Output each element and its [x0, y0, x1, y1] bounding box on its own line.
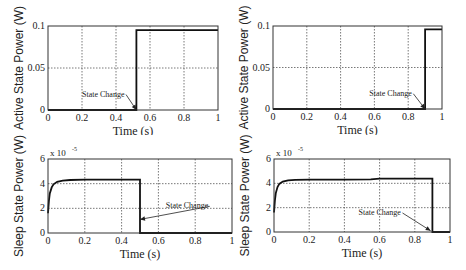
y-tick-label: 0.05 [28, 62, 46, 73]
x-axis-label: Time (s) [120, 247, 161, 261]
y-axis-label: Sleep State Power (W) [238, 135, 252, 257]
x-tick-label: 0 [271, 111, 276, 122]
y-tick-label: 0.1 [33, 20, 46, 31]
x-tick-label: 0.8 [189, 235, 202, 246]
y-tick-label: 0 [40, 227, 45, 238]
y-tick-label: 4 [40, 178, 45, 189]
chart-sleep-power-switch-0-5: 00.20.40.60.810246x 10-5Time (s)Sleep St… [0, 135, 235, 270]
x-tick-label: 0.2 [76, 112, 89, 123]
x-tick-label: 0 [46, 235, 51, 246]
y-multiplier-base: x 10 [276, 148, 292, 158]
grid [48, 26, 218, 110]
y-tick-label: 6 [40, 153, 45, 164]
x-tick-label: 0.4 [110, 112, 123, 123]
x-tick-label: 0.4 [338, 234, 351, 245]
grid [273, 26, 442, 109]
y-tick-label: 4 [266, 177, 271, 188]
x-tick-label: 0.6 [144, 112, 157, 123]
annotation-state-change: State Change [166, 201, 209, 210]
data-line [274, 179, 450, 232]
x-tick-label: 1 [448, 234, 453, 245]
x-tick-label: 0.4 [334, 111, 347, 122]
x-tick-label: 0.6 [152, 235, 165, 246]
x-tick-label: 1 [216, 112, 221, 123]
x-tick-label: 0.2 [303, 234, 316, 245]
chart-svg: 00.20.40.60.810246x 10-5Time (s)Sleep St… [235, 135, 466, 270]
y-tick-label: 0.05 [253, 62, 271, 73]
x-axis-label: Time (s) [337, 123, 378, 135]
y-multiplier-base: x 10 [50, 148, 66, 158]
y-tick-label: 0 [266, 226, 271, 237]
data-line [48, 30, 218, 110]
arrowhead-icon [425, 226, 430, 231]
y-tick-label: 0 [265, 103, 270, 114]
x-tick-label: 0.8 [409, 234, 422, 245]
x-axis-label: Time (s) [113, 124, 154, 135]
x-tick-label: 0 [46, 112, 51, 123]
y-multiplier-exponent: -5 [72, 146, 77, 152]
y-axis-label: Sleep State Power (W) [12, 135, 26, 257]
y-tick-label: 0.1 [258, 20, 271, 31]
x-tick-label: 0.8 [402, 111, 415, 122]
y-axis-label: Active State Power (W) [12, 6, 26, 130]
chart-active-power-switch-0-5: 00.20.40.60.8100.050.1Time (s)Active Sta… [0, 0, 235, 135]
x-tick-label: 1 [440, 111, 445, 122]
x-axis-label: Time (s) [342, 246, 383, 260]
chart-svg: 00.20.40.60.810246x 10-5Time (s)Sleep St… [0, 135, 235, 270]
x-tick-label: 0.8 [178, 112, 191, 123]
y-tick-label: 2 [40, 202, 45, 213]
y-tick-label: 0 [40, 104, 45, 115]
plot-frame [274, 159, 450, 232]
annotation-state-change: State Change [358, 208, 401, 217]
annotation-state-change: State Change [82, 90, 125, 99]
x-tick-label: 0.6 [373, 234, 386, 245]
x-tick-label: 0 [272, 234, 277, 245]
chart-svg: 00.20.40.60.8100.050.1Time (s)Active Sta… [0, 0, 235, 135]
y-multiplier-exponent: -5 [298, 146, 303, 152]
annotation-state-change: State Change [369, 89, 412, 98]
x-tick-label: 0.2 [301, 111, 314, 122]
y-tick-label: 2 [266, 202, 271, 213]
x-tick-label: 1 [230, 235, 235, 246]
x-tick-label: 0.4 [115, 235, 128, 246]
x-tick-label: 0.6 [368, 111, 381, 122]
grid [274, 159, 450, 232]
y-axis-label: Active State Power (W) [237, 5, 251, 129]
chart-svg: 00.20.40.60.8100.050.1Time (s)Active Sta… [235, 0, 466, 135]
data-line [273, 29, 442, 109]
y-tick-label: 6 [266, 153, 271, 164]
chart-active-power-switch-0-9: 00.20.40.60.8100.050.1Time (s)Active Sta… [235, 0, 466, 135]
x-tick-label: 0.2 [79, 235, 92, 246]
chart-sleep-power-switch-0-9: 00.20.40.60.810246x 10-5Time (s)Sleep St… [235, 135, 466, 270]
